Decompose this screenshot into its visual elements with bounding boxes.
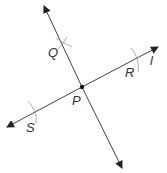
- label-s: S: [26, 120, 35, 135]
- line-l-right: [82, 47, 158, 87]
- label-line-l: l: [150, 53, 154, 68]
- arc-q-1: [56, 38, 72, 47]
- line-l-left: [7, 87, 82, 127]
- perpendicular-down: [82, 87, 122, 168]
- point-p: [80, 85, 84, 89]
- label-q: Q: [48, 45, 58, 60]
- label-p: P: [72, 93, 81, 108]
- geometry-diagram: Q P R S l: [0, 0, 167, 173]
- label-r: R: [125, 65, 134, 80]
